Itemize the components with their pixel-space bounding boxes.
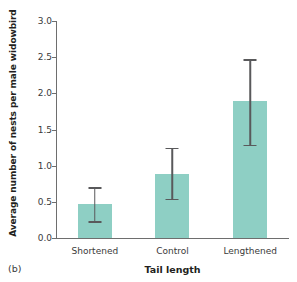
error-bar-cap-upper [166,148,179,150]
figure-panel-b: Average number of nests per male widowbi… [0,0,297,282]
error-bar-line [249,59,251,144]
error-bar-line [172,148,174,199]
error-bar-cap-upper [244,59,257,61]
plot-area: ShortenedControlLengthened [56,21,289,238]
y-tick-label: 1.5 [26,125,52,135]
y-tick-label: 2.0 [26,88,52,98]
error-bar-cap-lower [166,199,179,201]
y-tick-label: 0.0 [26,233,52,243]
bar-group [56,21,134,238]
error-bar-cap-lower [88,221,101,223]
bar-group [134,21,212,238]
error-bar-cap-lower [244,145,257,147]
x-axis-line [56,238,289,239]
bar-group [211,21,289,238]
y-axis-title: Average number of nests per male widowbi… [8,7,18,239]
error-bar-cap-upper [88,187,101,189]
y-tick-label: 1.0 [26,161,52,171]
y-tick-label: 0.5 [26,197,52,207]
x-category-label: Shortened [72,246,119,256]
x-category-label: Lengthened [223,246,277,256]
x-axis-title: Tail length [56,264,289,275]
y-tick-label: 3.0 [26,16,52,26]
y-tick-mark [52,238,56,239]
y-axis-tick-labels: 0.00.51.01.52.02.53.0 [22,0,52,282]
error-bar-line [94,187,96,221]
y-tick-label: 2.5 [26,52,52,62]
x-category-label: Control [156,246,189,256]
panel-label: (b) [8,263,21,274]
